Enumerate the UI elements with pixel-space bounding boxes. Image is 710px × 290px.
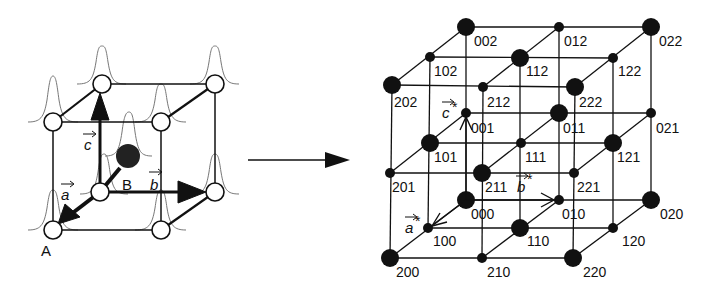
node-label: 010 xyxy=(562,206,586,222)
node-label: 210 xyxy=(487,264,511,280)
atom-a xyxy=(206,183,224,201)
gaussian-peaks xyxy=(28,46,239,230)
atom-a xyxy=(44,113,62,131)
node-label: 220 xyxy=(583,264,607,280)
star-mark: * xyxy=(415,213,421,229)
node-label: 022 xyxy=(659,33,683,49)
vector-a-star-label: a xyxy=(405,219,413,236)
node-label: 100 xyxy=(433,233,457,249)
node-label: 102 xyxy=(434,63,458,79)
atom-a xyxy=(91,183,109,201)
vector-c-label: c xyxy=(84,136,92,153)
node-label: 120 xyxy=(622,233,646,249)
node-label: 221 xyxy=(577,179,601,195)
node-label: 011 xyxy=(563,120,586,136)
real-space-cube: c a b B A xyxy=(28,46,239,259)
node-label: 201 xyxy=(392,179,416,195)
atom-a xyxy=(152,113,170,131)
vector-b-star-label: b xyxy=(517,178,525,195)
transform-arrow xyxy=(248,152,350,168)
figure-canvas: c a b B A xyxy=(0,0,710,290)
node-label: 111 xyxy=(525,149,546,165)
node-label: 012 xyxy=(564,33,588,49)
atom-b-label: B xyxy=(122,176,132,193)
node-label: 021 xyxy=(656,120,680,136)
b-arrow-head xyxy=(178,181,206,203)
reciprocal-labels: 002 012 022 102 112 122 202 212 222 001 … xyxy=(392,33,684,280)
node-label: 101 xyxy=(434,149,458,165)
atom-a xyxy=(152,221,170,239)
node-label: 202 xyxy=(394,94,418,110)
node-label: 212 xyxy=(487,94,511,110)
node-label: 122 xyxy=(618,63,642,79)
node-label: 222 xyxy=(579,94,603,110)
node-label: 112 xyxy=(526,63,549,79)
node-label: 020 xyxy=(660,206,684,222)
vector-c-star-label: c xyxy=(442,104,450,121)
c-arrow-head xyxy=(91,93,109,120)
node-label: 001 xyxy=(471,120,495,136)
atom-a xyxy=(93,75,111,93)
node-label: 211 xyxy=(485,179,508,195)
atom-a-label: A xyxy=(41,242,51,259)
node-label: 002 xyxy=(474,33,498,49)
atom-b xyxy=(116,144,140,168)
reciprocal-vector-labels: c * a * b * xyxy=(405,99,533,236)
atom-a xyxy=(206,75,224,93)
node-label: 121 xyxy=(617,149,641,165)
vector-b-label: b xyxy=(150,176,158,193)
node-label: 200 xyxy=(396,264,420,280)
a-arrow-head xyxy=(58,204,80,224)
vector-a-label: a xyxy=(61,186,69,203)
node-label: 000 xyxy=(471,206,495,222)
arrow-right-icon xyxy=(325,152,350,168)
reciprocal-nodes xyxy=(381,18,660,267)
star-mark: * xyxy=(527,171,533,187)
atom-a xyxy=(44,221,62,239)
node-label: 110 xyxy=(527,233,550,249)
